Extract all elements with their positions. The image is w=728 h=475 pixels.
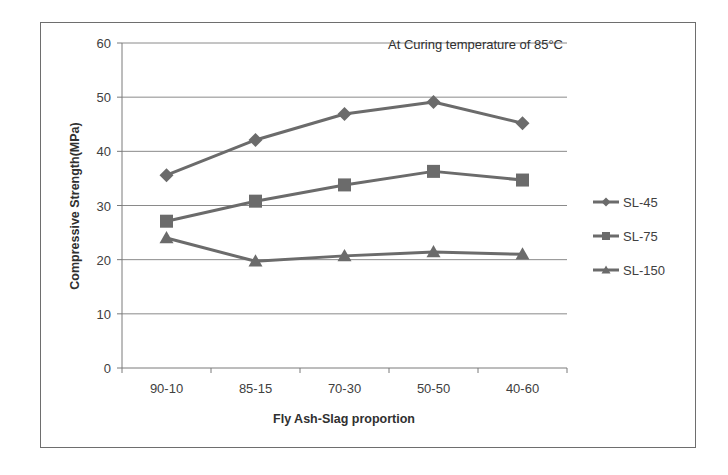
y-tick-label: 30 xyxy=(97,199,111,214)
y-tick-label: 10 xyxy=(97,307,111,322)
x-tick-label: 90-10 xyxy=(150,381,183,396)
y-tick-label: 20 xyxy=(97,253,111,268)
square-marker xyxy=(516,174,529,187)
diamond-marker xyxy=(249,133,263,147)
curing-temperature-annotation: At Curing temperature of 85°C xyxy=(388,37,563,52)
triangle-marker xyxy=(160,231,174,243)
square-marker xyxy=(160,215,173,228)
diamond-marker xyxy=(160,168,174,182)
legend-item-sl-75: SL-75 xyxy=(593,229,658,244)
x-tick-label: 70-30 xyxy=(328,381,361,396)
square-marker xyxy=(338,178,351,191)
diamond-marker xyxy=(516,116,530,130)
legend-item-sl-150: SL-150 xyxy=(593,263,665,278)
y-tick-labels: 0102030405060 xyxy=(97,36,111,376)
y-tick-label: 50 xyxy=(97,90,111,105)
series-sl-75 xyxy=(160,165,529,228)
x-axis-title: Fly Ash-Slag proportion xyxy=(273,412,415,426)
line-chart: 0102030405060 90-1085-1570-3050-5040-60 … xyxy=(0,0,728,475)
legend-label: SL-45 xyxy=(623,195,658,210)
y-tick-label: 40 xyxy=(97,144,111,159)
y-axis-title: Compressive Strength(MPa) xyxy=(68,122,82,289)
legend-label: SL-150 xyxy=(623,263,665,278)
legend-label: SL-75 xyxy=(623,229,658,244)
square-marker xyxy=(249,195,262,208)
x-tick-label: 85-15 xyxy=(239,381,272,396)
y-tick-label: 0 xyxy=(104,361,111,376)
y-tick-label: 60 xyxy=(97,36,111,51)
legend-item-sl-45: SL-45 xyxy=(593,195,658,210)
axes xyxy=(117,43,567,373)
diamond-marker xyxy=(338,107,352,121)
x-tick-label: 50-50 xyxy=(417,381,450,396)
square-marker xyxy=(602,232,610,240)
data-series xyxy=(160,95,530,267)
series-sl-150 xyxy=(160,231,530,267)
legend: SL-45SL-75SL-150 xyxy=(593,195,665,278)
series-sl-45 xyxy=(160,95,530,182)
square-marker xyxy=(427,165,440,178)
x-tick-labels: 90-1085-1570-3050-5040-60 xyxy=(150,381,539,396)
x-tick-label: 40-60 xyxy=(506,381,539,396)
diamond-marker xyxy=(602,198,611,207)
